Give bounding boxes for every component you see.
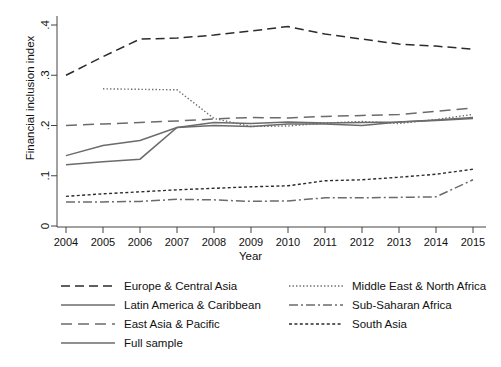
legend-item[interactable]: Sub-Saharan Africa [288,295,486,314]
legend-item-label: East Asia & Pacific [124,317,220,331]
series-line-middle-east-north-africa [103,89,473,127]
y-tick-label: .1 [39,171,51,181]
legend-line-swatch [288,298,344,312]
legend-line-swatch [60,317,116,331]
legend-item-label: Latin America & Caribbean [124,298,261,312]
x-tick-label: 2014 [424,236,448,248]
y-tick-label: 0 [39,223,51,229]
legend-column-left: Europe & Central AsiaLatin America & Car… [60,276,261,352]
chart-legend: Europe & Central AsiaLatin America & Car… [60,276,480,362]
y-tick-label: .4 [39,20,51,30]
legend-item-label: Middle East & North Africa [352,279,486,293]
x-axis-ticks: 2004200520062007200820092010201120122013… [54,227,485,248]
series-line-europe-central-asia [66,27,473,76]
legend-line-swatch [288,317,344,331]
x-tick-label: 2015 [461,236,485,248]
data-series-group [66,27,473,202]
x-tick-label: 2008 [202,236,226,248]
legend-item[interactable]: Full sample [60,333,261,352]
x-tick-label: 2011 [313,236,337,248]
financial-inclusion-chart: Financial inclusion index Year 0.1.2.3.4… [0,0,501,367]
legend-item[interactable]: South Asia [288,314,486,333]
legend-item-label: Europe & Central Asia [124,279,237,293]
legend-line-swatch [60,336,116,350]
legend-item[interactable]: Middle East & North Africa [288,276,486,295]
legend-item-label: Full sample [124,336,183,350]
legend-item[interactable]: East Asia & Pacific [60,314,261,333]
legend-line-swatch [60,298,116,312]
y-axis-ticks: 0.1.2.3.4 [39,20,57,230]
plot-area: 0.1.2.3.4 200420052006200720082009201020… [0,0,501,270]
legend-column-right: Middle East & North AfricaSub-Saharan Af… [288,276,486,333]
series-line-sub-saharan-africa [66,180,473,202]
legend-line-swatch [288,279,344,293]
legend-line-swatch [60,279,116,293]
legend-item[interactable]: Latin America & Caribbean [60,295,261,314]
x-tick-label: 2009 [239,236,263,248]
x-tick-label: 2006 [128,236,152,248]
x-tick-label: 2013 [387,236,411,248]
y-tick-label: .2 [39,121,51,131]
x-tick-label: 2007 [165,236,189,248]
x-tick-label: 2010 [276,236,300,248]
series-line-south-asia [66,169,473,196]
legend-item-label: Sub-Saharan Africa [352,298,452,312]
x-tick-label: 2005 [91,236,115,248]
legend-item-label: South Asia [352,317,407,331]
y-tick-label: .3 [39,70,51,80]
x-tick-label: 2004 [54,236,78,248]
legend-item[interactable]: Europe & Central Asia [60,276,261,295]
x-tick-label: 2012 [350,236,374,248]
